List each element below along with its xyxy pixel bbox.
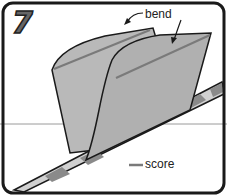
bend-label: bend [145,8,172,20]
score-label: score [145,158,174,170]
step-7-diagram: 7 bend score [0,0,227,196]
step-number: 7 [12,8,33,38]
fold-illustration [0,0,227,196]
